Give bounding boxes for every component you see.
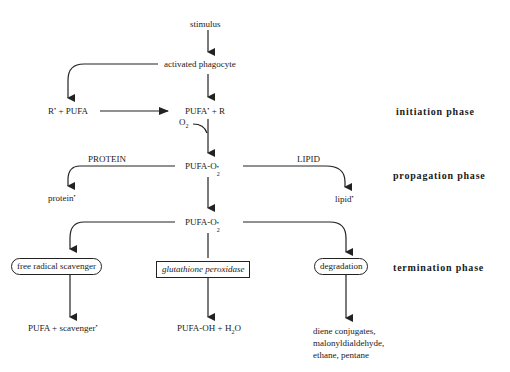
peroxyl-base: PUFA-O xyxy=(185,161,217,171)
o2-subscript: 2 xyxy=(186,123,189,129)
radical-dot: • xyxy=(352,194,354,200)
label-protein: PROTEIN xyxy=(88,155,126,164)
node-pufa-radical-r: PUFA• + R xyxy=(185,107,225,116)
node-protein-radical: protein• xyxy=(48,194,76,203)
arrow-peroxyl-to-lipid xyxy=(243,166,345,187)
pufa-r-rest: + R xyxy=(209,106,225,116)
node-stimulus: stimulus xyxy=(190,20,221,29)
h2o-rest: O xyxy=(234,323,241,333)
arrow-peroxyl-to-scavenger xyxy=(70,222,175,249)
node-free-radical-scavenger: free radical scavenger xyxy=(11,258,102,275)
lipid-base: lipid xyxy=(335,194,352,204)
node-activated-phagocyte: activated phagocyte xyxy=(164,60,236,69)
pufa-oh-base: PUFA-OH + H xyxy=(177,323,231,333)
node-degradation: degradation xyxy=(314,258,368,275)
pufa-scavenger-base: PUFA + scavenger xyxy=(28,323,95,333)
label-lipid: LIPID xyxy=(297,155,320,164)
node-pufa-scavenger-radical: PUFA + scavenger• xyxy=(28,324,98,333)
o2-join-curve xyxy=(193,124,207,133)
phase-propagation: propagation phase xyxy=(393,170,486,181)
product-line: ethane, pentane xyxy=(313,349,384,361)
pufa-text: PUFA xyxy=(185,106,207,116)
phase-termination: termination phase xyxy=(393,262,484,273)
node-r-radical-pufa: R• + PUFA xyxy=(48,107,88,116)
diagram-arrows xyxy=(0,0,510,372)
r-pufa-rest: + PUFA xyxy=(56,106,88,116)
arrow-phagocyte-to-r-pufa xyxy=(68,64,158,98)
node-glutathione-peroxidase: glutathione peroxidase xyxy=(156,261,250,278)
arrow-peroxyl-to-degradation xyxy=(243,222,346,252)
product-line: malonyldialdehyde, xyxy=(313,337,384,349)
peroxyl-base: PUFA-O xyxy=(185,217,217,227)
node-degradation-products: diene conjugates, malonyldialdehyde, eth… xyxy=(313,325,384,361)
node-pufa-oh-water: PUFA-OH + H2O xyxy=(177,324,241,333)
node-o2: O2 xyxy=(179,118,189,127)
radical-dot: • xyxy=(74,193,76,199)
node-peroxyl-radical-1: PUFA-O•2 xyxy=(185,162,221,171)
arrow-peroxyl-to-protein xyxy=(68,166,175,186)
node-lipid-radical: lipid• xyxy=(335,195,354,204)
protein-base: protein xyxy=(48,193,74,203)
phase-initiation: initiation phase xyxy=(396,106,475,117)
node-peroxyl-radical-2: PUFA-O•2 xyxy=(185,218,221,227)
radical-dot: • xyxy=(95,323,97,329)
product-line: diene conjugates, xyxy=(313,325,384,337)
